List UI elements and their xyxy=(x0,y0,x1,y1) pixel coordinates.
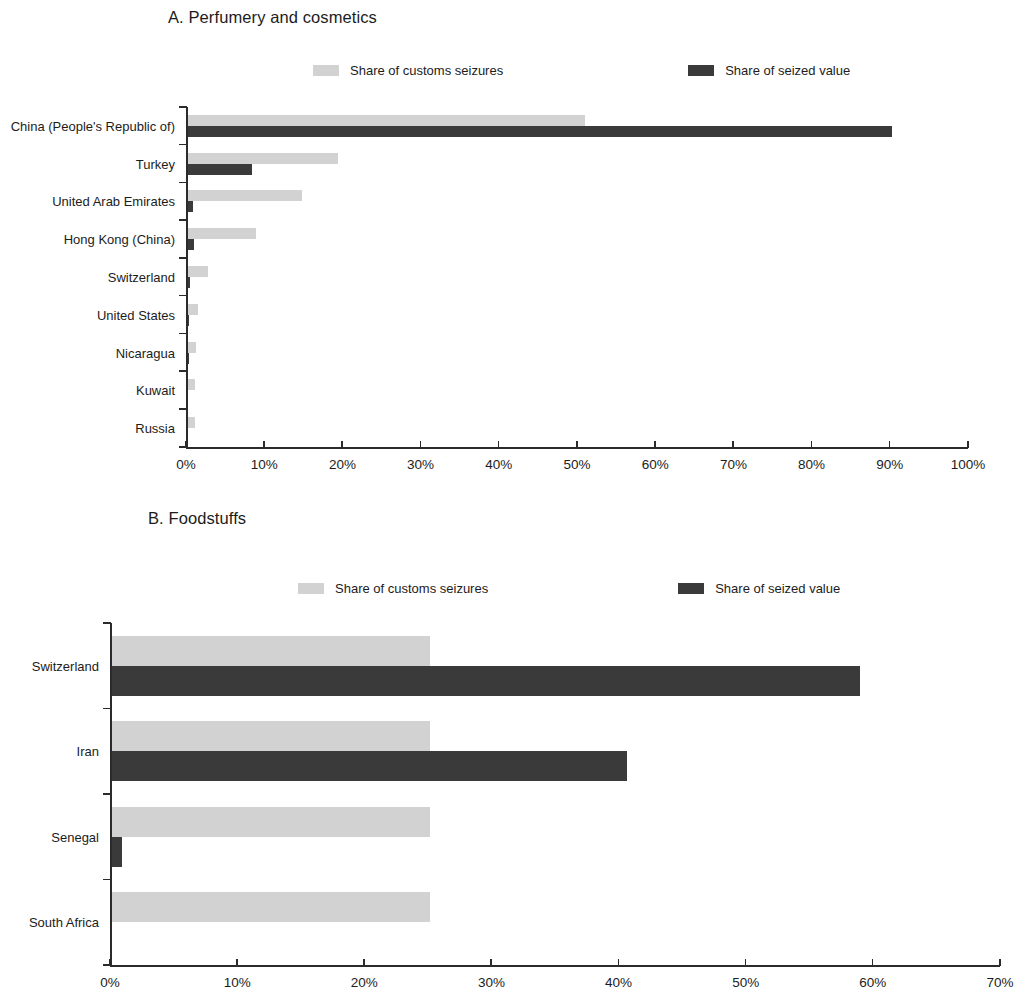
x-axis-tick xyxy=(490,959,492,966)
category-label: Turkey xyxy=(136,156,175,171)
x-axis-tick-label: 30% xyxy=(478,975,505,990)
bar-seized-value xyxy=(112,751,627,781)
y-axis-tick xyxy=(179,144,187,146)
bar-seized-value xyxy=(188,239,194,250)
x-axis-tick-label: 90% xyxy=(876,457,903,472)
x-axis-tick xyxy=(732,441,734,448)
bar-customs-seizures xyxy=(188,304,198,315)
bar-customs-seizures xyxy=(188,342,196,353)
bar-seized-value xyxy=(112,837,122,867)
category-label: Switzerland xyxy=(108,270,175,285)
x-axis-tick-label: 20% xyxy=(351,975,378,990)
y-axis-tick xyxy=(103,708,111,710)
bar-customs-seizures xyxy=(112,892,430,922)
x-axis-tick xyxy=(363,959,365,966)
x-axis-tick-label: 40% xyxy=(485,457,512,472)
y-axis-tick xyxy=(179,219,187,221)
x-axis-tick xyxy=(889,441,891,448)
x-axis-tick-label: 30% xyxy=(407,457,434,472)
category-label: South Africa xyxy=(29,915,99,930)
x-axis-tick-label: 10% xyxy=(224,975,251,990)
panel-perfumery-and-cosmetics: A. Perfumery and cosmetics Share of cust… xyxy=(0,0,1009,495)
x-axis-tick-label: 70% xyxy=(986,975,1013,990)
y-axis-tick xyxy=(179,106,187,108)
y-axis-tick xyxy=(103,879,111,881)
x-axis-line xyxy=(110,965,1000,967)
bar-customs-seizures xyxy=(188,228,256,239)
bar-customs-seizures xyxy=(188,266,208,277)
bar-seized-value xyxy=(112,666,860,696)
y-axis-tick xyxy=(179,295,187,297)
bar-customs-seizures xyxy=(188,115,585,126)
x-axis-tick xyxy=(967,441,969,448)
bar-seized-value xyxy=(188,277,190,288)
y-axis-tick xyxy=(179,182,187,184)
bar-customs-seizures xyxy=(188,153,338,164)
x-axis-tick-label: 20% xyxy=(329,457,356,472)
bar-customs-seizures xyxy=(188,379,195,390)
category-label: Nicaragua xyxy=(116,345,175,360)
bar-customs-seizures xyxy=(112,721,430,751)
x-axis-tick xyxy=(745,959,747,966)
category-label: Russia xyxy=(135,421,175,436)
bar-customs-seizures xyxy=(112,636,430,666)
x-axis-tick xyxy=(263,441,265,448)
bar-customs-seizures xyxy=(188,190,302,201)
x-axis-tick-label: 100% xyxy=(951,457,986,472)
x-axis-tick-label: 40% xyxy=(605,975,632,990)
x-axis-tick-label: 70% xyxy=(720,457,747,472)
bar-seized-value xyxy=(188,126,892,137)
y-axis-tick xyxy=(103,622,111,624)
bar-seized-value xyxy=(188,315,189,326)
x-axis-tick-label: 0% xyxy=(176,457,196,472)
x-axis-tick-label: 50% xyxy=(732,975,759,990)
bar-seized-value xyxy=(188,201,193,212)
y-axis-tick xyxy=(179,408,187,410)
x-axis-tick xyxy=(654,441,656,448)
x-axis-tick xyxy=(185,441,187,448)
category-label: Kuwait xyxy=(136,383,175,398)
category-label: Iran xyxy=(77,744,99,759)
category-label: Hong Kong (China) xyxy=(64,232,175,247)
bar-customs-seizures xyxy=(188,417,195,428)
y-axis-tick xyxy=(179,370,187,372)
x-axis-tick-label: 60% xyxy=(642,457,669,472)
x-axis-tick xyxy=(618,959,620,966)
y-axis-tick xyxy=(103,793,111,795)
y-axis-tick xyxy=(179,333,187,335)
x-axis-tick xyxy=(872,959,874,966)
x-axis-tick xyxy=(420,441,422,448)
panel-a-plot-area: China (People's Republic of)TurkeyUnited… xyxy=(0,0,1009,495)
x-axis-tick-label: 50% xyxy=(563,457,590,472)
panel-b-plot-area: SwitzerlandIranSenegalSouth Africa0%10%2… xyxy=(0,495,1009,999)
x-axis-tick-label: 80% xyxy=(798,457,825,472)
panel-foodstuffs: B. Foodstuffs Share of customs seizures … xyxy=(0,495,1009,999)
category-label: Switzerland xyxy=(32,658,99,673)
x-axis-tick-label: 10% xyxy=(251,457,278,472)
category-label: Senegal xyxy=(51,829,99,844)
bar-seized-value xyxy=(188,164,252,175)
x-axis-tick-label: 60% xyxy=(859,975,886,990)
bar-customs-seizures xyxy=(112,807,430,837)
x-axis-tick xyxy=(811,441,813,448)
category-label: United States xyxy=(97,307,175,322)
x-axis-tick xyxy=(999,959,1001,966)
x-axis-tick xyxy=(576,441,578,448)
category-label: China (People's Republic of) xyxy=(11,118,175,133)
x-axis-tick xyxy=(341,441,343,448)
bar-seized-value xyxy=(188,353,189,364)
x-axis-tick xyxy=(236,959,238,966)
y-axis-tick xyxy=(179,257,187,259)
x-axis-tick-label: 0% xyxy=(100,975,120,990)
x-axis-tick xyxy=(109,959,111,966)
category-label: United Arab Emirates xyxy=(52,194,175,209)
x-axis-tick xyxy=(498,441,500,448)
